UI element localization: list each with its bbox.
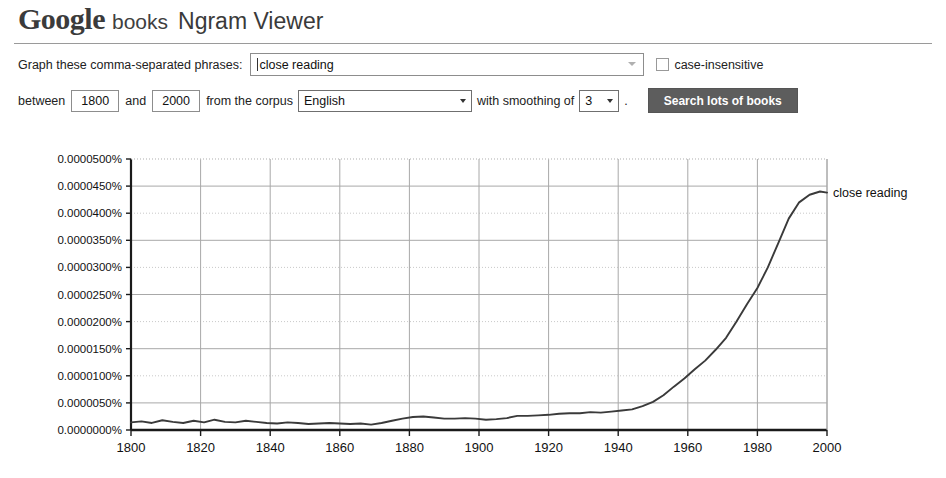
header-divider	[14, 43, 932, 44]
smoothing-select-value: 3	[585, 94, 592, 108]
x-tick-label: 1880	[395, 440, 424, 455]
x-axis-tick-labels: 1800182018401860188019001920194019601980…	[117, 440, 842, 455]
chevron-down-icon[interactable]	[628, 62, 636, 66]
options-row: between 1800 and 2000 from the corpus En…	[18, 88, 798, 113]
y-tick-label: 0.0000050%	[57, 397, 122, 409]
case-insensitive-label: case-insensitive	[674, 58, 763, 72]
corpus-select-value: English	[304, 94, 345, 108]
y-tick-label: 0.0000450%	[57, 180, 122, 192]
y-tick-label: 0.0000000%	[57, 424, 122, 436]
x-tick-label: 1980	[743, 440, 772, 455]
between-label: between	[18, 94, 65, 108]
y-tick-label: 0.0000200%	[57, 316, 122, 328]
series-label: close reading	[833, 186, 907, 200]
y-tick-label: 0.0000300%	[57, 261, 122, 273]
x-tick-label: 2000	[813, 440, 842, 455]
y-tick-label: 0.0000350%	[57, 234, 122, 246]
phrases-input-value: close reading	[259, 58, 333, 72]
x-tick-label: 1840	[256, 440, 285, 455]
x-tick-label: 1860	[325, 440, 354, 455]
chevron-down-icon	[460, 99, 466, 103]
case-insensitive-checkbox[interactable]	[656, 58, 669, 71]
text-caret	[257, 58, 258, 71]
y-tick-label: 0.0000500%	[57, 153, 122, 165]
case-insensitive-control[interactable]: case-insensitive	[656, 58, 763, 72]
y-tick-label: 0.0000100%	[57, 370, 122, 382]
x-tick-label: 1940	[604, 440, 633, 455]
corpus-label: from the corpus	[206, 94, 293, 108]
ngram-chart: 0.0000500%0.0000450%0.0000400%0.0000350%…	[0, 140, 946, 460]
smoothing-select[interactable]: 3	[579, 90, 619, 112]
x-tick-label: 1960	[673, 440, 702, 455]
series-legend-labels: close reading	[833, 186, 907, 200]
start-year-input[interactable]: 1800	[71, 90, 119, 112]
chevron-down-icon	[607, 99, 613, 103]
phrases-label: Graph these comma-separated phrases:	[18, 58, 242, 72]
end-year-input[interactable]: 2000	[152, 90, 200, 112]
query-row: Graph these comma-separated phrases: clo…	[18, 53, 763, 76]
sentence-period: .	[624, 94, 627, 108]
books-wordmark: books	[112, 10, 168, 34]
ngram-viewer-title: Ngram Viewer	[178, 8, 323, 35]
x-tick-label: 1920	[534, 440, 563, 455]
y-axis-tick-labels: 0.0000500%0.0000450%0.0000400%0.0000350%…	[57, 153, 122, 436]
x-tick-label: 1820	[186, 440, 215, 455]
y-tick-label: 0.0000150%	[57, 343, 122, 355]
app-masthead: Google books Ngram Viewer	[18, 2, 323, 36]
y-tick-label: 0.0000400%	[57, 207, 122, 219]
phrases-input[interactable]: close reading	[250, 53, 644, 76]
x-tick-label: 1900	[465, 440, 494, 455]
and-label: and	[125, 94, 146, 108]
y-tick-label: 0.0000250%	[57, 289, 122, 301]
corpus-select[interactable]: English	[298, 90, 472, 112]
chart-canvas: 0.0000500%0.0000450%0.0000400%0.0000350%…	[0, 140, 946, 460]
x-tick-label: 1800	[117, 440, 146, 455]
search-button[interactable]: Search lots of books	[648, 88, 798, 113]
google-wordmark: Google	[18, 2, 105, 36]
smoothing-label: with smoothing of	[477, 94, 574, 108]
search-button-label: Search lots of books	[664, 94, 782, 108]
